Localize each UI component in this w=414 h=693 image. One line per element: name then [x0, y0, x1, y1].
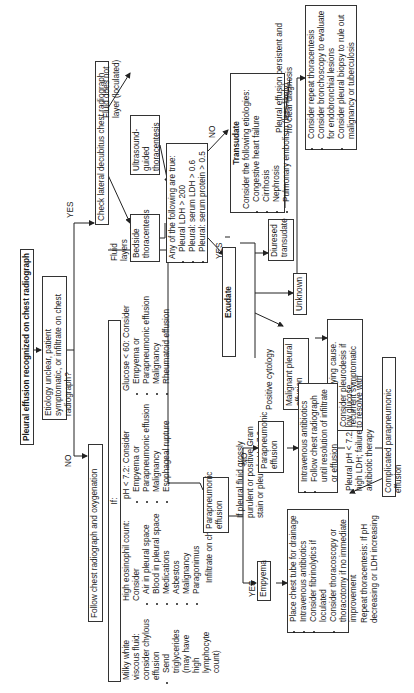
- bedside-thoracentesis-box: Bedside thoracentesis: [130, 214, 160, 262]
- persistent-action-item: Consider repeat thoracentesis: [307, 9, 317, 139]
- transudate-intro: Consider the following etiologies:: [242, 77, 252, 209]
- para-action-item: Intravenous antibiotics: [300, 387, 310, 482]
- lights-criteria-box: Any of the following are true: Pleural L…: [166, 143, 208, 263]
- empyema-action-item: Consider fibrinolytics if loculated: [309, 513, 329, 622]
- eosinophil-item: Medications: [162, 501, 172, 594]
- no-label-1: NO: [64, 455, 74, 467]
- empyema-action-item: Consider thoracoscopy or thoracotomy if …: [329, 513, 359, 622]
- question-box: Etiology unclear, patient symptomatic, o…: [42, 276, 67, 420]
- glucose-title: Glucose < 60: Consider: [122, 285, 132, 391]
- diuresed-text: Diuresed transudate: [270, 218, 289, 257]
- eosinophil-title: High eosinophil count: Consider: [122, 501, 142, 601]
- empyema-actions-box: Place chest tube for drainage Intravenou…: [287, 509, 349, 633]
- milky-list: Send triglycerides (may have high lympho…: [162, 618, 222, 680]
- empyema-actions-list: Place chest tube for drainage Intravenou…: [289, 513, 359, 629]
- no-label-3: NO: [240, 453, 250, 465]
- eosinophil-item: Air in pleural space: [142, 501, 152, 594]
- ph-item: Esophageal rupture: [162, 393, 172, 492]
- transudate-item: Cirrhosis: [262, 77, 272, 202]
- ph-title: pH < 7.2: Consider: [122, 393, 132, 499]
- ph-criteria: pH < 7.2: Consider Empyema or Parapneumo…: [122, 393, 172, 499]
- if-text: If:: [110, 498, 119, 505]
- spacer4: [205, 537, 207, 543]
- empyema-action-item: Intravenous antibiotics: [299, 513, 309, 622]
- milky-criteria: Milky white viscous fluid: consider chyl…: [122, 618, 222, 680]
- eosinophil-item: Malignancy: [182, 501, 192, 594]
- milky-title: Milky white viscous fluid: consider chyl…: [122, 618, 162, 680]
- flowchart-canvas: Pleural effusion recognized on chest rad…: [0, 0, 414, 693]
- follow-radiograph-box: Follow chest radiograph and oxygenation: [88, 444, 103, 622]
- exudate-box: Exudate: [222, 247, 236, 357]
- failure-label: Pleural pH < 7.2, low glucose, high LDH;…: [345, 373, 375, 491]
- lights-list: Pleural LDH > 200 Pleural: serum LDH > 0…: [178, 147, 208, 259]
- transudate-item: Congestive heart failure: [252, 77, 262, 202]
- bedside-text: Bedside thoracentesis: [132, 209, 151, 258]
- start-text: Pleural effusion recognized on chest rad…: [22, 253, 31, 441]
- eosinophil-item: Blood in pleural space: [152, 501, 162, 594]
- glucose-item: Rheumatoid effusion: [162, 285, 172, 384]
- transudate-title: Transudate: [232, 77, 242, 209]
- persistent-actions-list: Consider repeat thoracentesis Consider b…: [307, 9, 357, 146]
- milky-item: Send triglycerides (may have high lympho…: [162, 618, 222, 673]
- glucose-criteria: Glucose < 60: Consider Empyema or Parapn…: [122, 285, 172, 391]
- parapneumonic2-box: Parapneumonic effusion: [258, 421, 284, 473]
- lights-item: Pleural: serum LDH > 0.6: [188, 147, 198, 252]
- empyema-box: Empyema: [257, 561, 271, 601]
- para-actions-box: Intravenous antibiotics Follow chest rad…: [298, 383, 338, 493]
- fluid-not-layer-label: Fluid does not layer (loculated): [102, 56, 122, 118]
- diuresed-transudate-box: Diuresed transudate: [268, 219, 294, 261]
- complicated-box: Complicated parapneumonic effusion: [382, 357, 396, 497]
- start-box: Pleural effusion recognized on chest rad…: [20, 249, 34, 445]
- ph-item: Malignancy: [152, 393, 162, 492]
- ultrasound-text: Ultrasound-guided thoracentesis: [132, 122, 161, 171]
- parapneumonic-box: Parapneumonic effusion: [203, 477, 229, 533]
- ultrasound-thoracentesis-box: Ultrasound-guided thoracentesis: [130, 115, 160, 175]
- repeat-thoracentesis-label: Repeat thoracentesis: If pH decreasing o…: [360, 503, 380, 623]
- glucose-item: Empyema or: [132, 285, 142, 384]
- glucose-item: Parapneumonic effusion: [142, 285, 152, 384]
- para-action-item: Follow chest radiograph until resolution…: [310, 387, 340, 482]
- lights-item: Pleural LDH > 200: [178, 147, 188, 252]
- positive-cytology-label: Positive cytology: [265, 349, 275, 410]
- lights-item: Pleural: serum protein > 0.5: [198, 147, 208, 252]
- eosinophil-criteria: High eosinophil count: Consider Air in p…: [122, 501, 202, 601]
- eosinophil-list: Air in pleural space Blood in pleural sp…: [142, 501, 202, 601]
- unknown-text: Unknown: [295, 277, 304, 311]
- eosinophil-item: Asbestos: [172, 501, 182, 594]
- persistent-actions-box: Consider repeat thoracentesis Consider b…: [305, 5, 357, 150]
- persistent-action-item: Consider pleural biopsy to rule out mali…: [337, 9, 357, 139]
- ph-list: Empyema or Parapneumonic effusion Malign…: [132, 393, 172, 499]
- parapneumonic-text: Parapneumonic effusion: [205, 472, 224, 529]
- no-label-2: NO: [208, 126, 218, 138]
- eosinophil-item: Paragonimus: [192, 501, 202, 594]
- if-box: If:: [108, 320, 121, 682]
- para-actions-list: Intravenous antibiotics Follow chest rad…: [300, 387, 340, 489]
- glucose-item: Malignancy: [152, 285, 162, 384]
- parapneumonic2-text: Parapneumonic effusion: [260, 412, 279, 469]
- lights-title: Any of the following are true:: [168, 147, 178, 259]
- yes-label-1: YES: [66, 202, 76, 218]
- ph-item: Parapneumonic effusion: [142, 393, 152, 492]
- empyema-text: Empyema: [259, 560, 268, 597]
- empyema-action-item: Place chest tube for drainage: [289, 513, 299, 622]
- follow-text: Follow chest radiograph and oxygenation: [90, 469, 99, 618]
- glucose-list: Empyema or Parapneumonic effusion Malign…: [132, 285, 172, 391]
- persistent-label: Pleural effusion persistent and no clear…: [275, 23, 295, 133]
- unknown-box: Unknown: [293, 273, 307, 315]
- exudate-text: Exudate: [224, 286, 233, 318]
- persistent-action-item: Consider bronchoscopy to evaluate for en…: [317, 9, 337, 139]
- ph-item: Empyema or: [132, 393, 142, 492]
